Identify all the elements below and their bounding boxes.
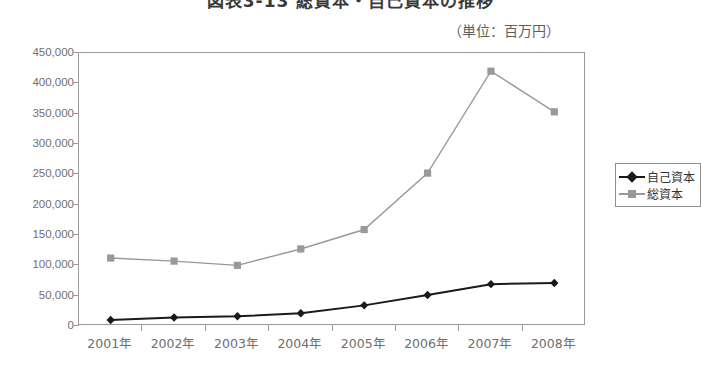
data-point-diamond bbox=[106, 316, 114, 324]
y-tick-label: 400,000 bbox=[4, 76, 74, 88]
y-tick-label: 450,000 bbox=[4, 46, 74, 58]
y-tick-label: 150,000 bbox=[4, 228, 74, 240]
x-tick-mark bbox=[205, 325, 206, 331]
x-tick-mark bbox=[141, 325, 142, 331]
legend-swatch bbox=[619, 171, 645, 183]
x-tick-mark bbox=[458, 325, 459, 331]
data-point-diamond bbox=[233, 312, 241, 320]
x-tick-label: 2002年 bbox=[138, 333, 208, 352]
unit-caption: （単位：百万円） bbox=[448, 20, 560, 40]
data-point-square bbox=[107, 254, 114, 261]
chart-title-clip: 図表3-13 総資本・自己資本の推移 bbox=[0, 0, 701, 11]
chart-legend: 自己資本総資本 bbox=[615, 163, 701, 207]
legend-item-1: 自己資本 bbox=[619, 168, 695, 185]
series-line bbox=[111, 71, 555, 265]
x-tick-label: 2005年 bbox=[328, 333, 398, 352]
x-tick-label: 2004年 bbox=[265, 333, 335, 352]
legend-swatch bbox=[619, 188, 645, 200]
x-tick-label: 2007年 bbox=[455, 333, 525, 352]
legend-label: 自己資本 bbox=[645, 168, 695, 185]
data-point-square bbox=[487, 68, 494, 75]
data-point-diamond bbox=[170, 313, 178, 321]
data-point-diamond bbox=[423, 291, 431, 299]
x-axis-labels: 2001年2002年2003年2004年2005年2006年2007年2008年 bbox=[78, 333, 585, 355]
line-chart-svg bbox=[79, 53, 586, 326]
data-point-diamond bbox=[297, 309, 305, 317]
data-point-diamond bbox=[487, 280, 495, 288]
data-point-square bbox=[551, 108, 558, 115]
series-2 bbox=[107, 68, 558, 269]
x-tick-mark bbox=[268, 325, 269, 331]
x-tick-label: 2008年 bbox=[518, 333, 588, 352]
y-tick-label: 0 bbox=[4, 319, 74, 331]
x-tick-mark bbox=[332, 325, 333, 331]
x-tick-label: 2001年 bbox=[75, 333, 145, 352]
x-tick-mark bbox=[395, 325, 396, 331]
data-point-diamond bbox=[550, 279, 558, 287]
data-point-diamond bbox=[360, 301, 368, 309]
legend-marker-square bbox=[628, 190, 636, 198]
data-point-square bbox=[234, 262, 241, 269]
series-1 bbox=[106, 279, 558, 324]
series-line bbox=[111, 283, 555, 320]
data-point-square bbox=[361, 226, 368, 233]
y-tick-label: 250,000 bbox=[4, 167, 74, 179]
y-tick-label: 200,000 bbox=[4, 198, 74, 210]
plot-area bbox=[78, 52, 585, 325]
legend-label: 総資本 bbox=[645, 185, 683, 202]
page-title: 図表3-13 総資本・自己資本の推移 bbox=[0, 0, 701, 11]
legend-item-2: 総資本 bbox=[619, 185, 695, 202]
data-point-square bbox=[424, 170, 431, 177]
data-point-square bbox=[170, 257, 177, 264]
x-tick-mark bbox=[522, 325, 523, 331]
y-tick-label: 50,000 bbox=[4, 289, 74, 301]
data-point-square bbox=[297, 245, 304, 252]
y-axis-labels: 050,000100,000150,000200,000250,000300,0… bbox=[0, 52, 74, 325]
y-tick-label: 300,000 bbox=[4, 137, 74, 149]
y-tick-label: 100,000 bbox=[4, 258, 74, 270]
x-axis-ticks bbox=[78, 325, 585, 331]
x-tick-label: 2006年 bbox=[392, 333, 462, 352]
y-tick-label: 350,000 bbox=[4, 107, 74, 119]
x-tick-label: 2003年 bbox=[201, 333, 271, 352]
legend-marker-diamond bbox=[626, 171, 637, 182]
